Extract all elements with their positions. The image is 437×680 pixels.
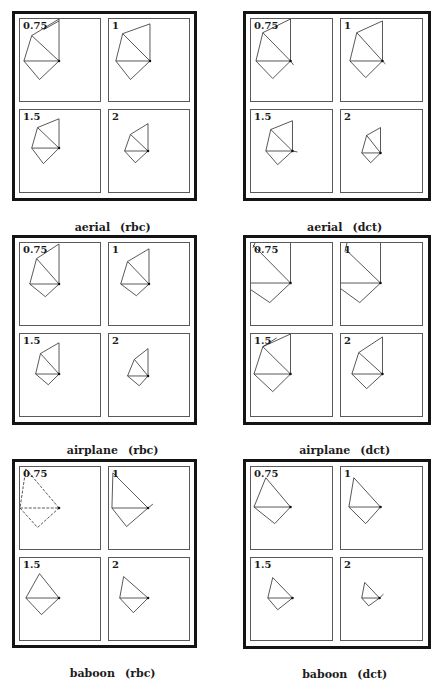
caption-baboon-rbc: baboon(rbc) <box>5 653 205 680</box>
panel-airplane-rbc: 0.7511.52 <box>12 235 197 425</box>
center-point-marker <box>147 150 150 153</box>
subplot-scale-2: 2 <box>340 557 423 641</box>
trajectory-plot <box>341 19 422 101</box>
scale-label: 2 <box>344 111 351 123</box>
scale-label: 2 <box>344 559 351 571</box>
center-point-marker <box>289 373 292 376</box>
caption-image-name: aerial <box>75 221 110 234</box>
caption-image-name: baboon <box>302 668 347 680</box>
subplot-scale-2: 2 <box>340 333 423 417</box>
subplot-scale-1-5: 1.5 <box>19 109 101 193</box>
scale-label: 2 <box>344 335 351 347</box>
caption-method: (dct) <box>352 221 382 234</box>
subplot-scale-1: 1 <box>108 466 190 550</box>
scale-label: 0.75 <box>23 20 47 32</box>
subplot-scale-1-5: 1.5 <box>19 557 101 641</box>
trajectory-plot <box>109 334 189 416</box>
center-point-marker <box>58 60 61 63</box>
caption-method: (dct) <box>360 444 390 457</box>
caption-image-name: airplane <box>67 444 118 457</box>
scale-label: 1.5 <box>23 111 40 123</box>
caption-method: (rbc) <box>125 667 156 680</box>
subplot-scale-0-75: 0.75 <box>250 466 333 550</box>
scale-label: 1 <box>112 468 119 480</box>
trajectory-plot <box>109 558 189 640</box>
scale-label: 1 <box>344 244 351 256</box>
scale-label: 2 <box>112 335 119 347</box>
subplot-scale-1-5: 1.5 <box>250 557 333 641</box>
scale-label: 1.5 <box>254 111 271 123</box>
subplot-scale-2: 2 <box>340 109 423 193</box>
scale-label: 0.75 <box>254 468 278 480</box>
trajectory-plot <box>109 110 189 192</box>
scale-label: 1.5 <box>23 335 40 347</box>
scale-label: 0.75 <box>23 244 47 256</box>
caption-image-name: aerial <box>307 221 342 234</box>
subplot-scale-0-75: 0.75 <box>19 466 101 550</box>
subplot-scale-1-5: 1.5 <box>19 333 101 417</box>
center-point-marker <box>58 507 61 510</box>
center-point-marker <box>58 147 61 150</box>
subplot-scale-1: 1 <box>340 466 423 550</box>
scale-label: 1 <box>344 468 351 480</box>
scale-label: 1 <box>344 20 351 32</box>
panel-baboon-rbc: 0.7511.52 <box>12 459 197 648</box>
center-point-marker <box>379 506 382 509</box>
subplot-scale-2: 2 <box>108 109 190 193</box>
center-point-marker <box>291 150 294 153</box>
center-point-marker <box>148 283 151 286</box>
trajectory-plot <box>109 243 189 325</box>
center-point-marker <box>379 152 382 155</box>
scale-label: 0.75 <box>254 244 278 256</box>
scale-label: 0.75 <box>23 468 47 480</box>
center-point-marker <box>379 282 382 285</box>
center-point-marker <box>291 597 294 600</box>
trajectory-plot <box>341 243 422 325</box>
center-point-marker <box>289 60 292 63</box>
center-point-marker <box>149 60 152 63</box>
center-point-marker <box>147 375 150 378</box>
panel-airplane-dct: 0.7511.52 <box>243 235 431 425</box>
center-point-marker <box>289 506 292 509</box>
subplot-scale-0-75: 0.75 <box>250 242 333 326</box>
subplot-scale-0-75: 0.75 <box>250 18 333 102</box>
center-point-marker <box>289 282 292 285</box>
center-point-marker <box>147 597 150 600</box>
trajectory-plot <box>109 19 189 101</box>
panel-aerial-rbc: 0.7511.52 <box>12 11 197 201</box>
caption-image-name: airplane <box>299 444 350 457</box>
center-point-marker <box>147 507 150 510</box>
subplot-scale-0-75: 0.75 <box>19 242 101 326</box>
panel-aerial-dct: 0.7511.52 <box>243 11 431 201</box>
subplot-scale-2: 2 <box>108 333 190 417</box>
subplot-scale-1: 1 <box>340 18 423 102</box>
subplot-scale-1-5: 1.5 <box>250 333 333 417</box>
scale-label: 2 <box>112 559 119 571</box>
scale-label: 1.5 <box>254 335 271 347</box>
center-point-marker <box>58 597 61 600</box>
scale-label: 1.5 <box>23 559 40 571</box>
caption-method: (rbc) <box>120 221 151 234</box>
scale-label: 1.5 <box>254 559 271 571</box>
trajectory-plot <box>341 558 422 640</box>
center-point-marker <box>58 283 61 286</box>
subplot-scale-1: 1 <box>340 242 423 326</box>
caption-method: (dct) <box>357 668 387 680</box>
subplot-scale-2: 2 <box>108 557 190 641</box>
subplot-scale-1: 1 <box>108 242 190 326</box>
center-point-marker <box>381 60 384 63</box>
scale-label: 1 <box>112 20 119 32</box>
trajectory-plot <box>341 334 422 416</box>
scale-label: 0.75 <box>254 20 278 32</box>
trajectory-plot <box>341 467 422 549</box>
caption-baboon-dct: baboon(dct) <box>237 654 437 680</box>
trajectory-plot <box>109 467 189 549</box>
caption-method: (rbc) <box>128 444 159 457</box>
subplot-scale-1: 1 <box>108 18 190 102</box>
center-point-marker <box>378 597 381 600</box>
center-point-marker <box>58 373 61 376</box>
scale-label: 1 <box>112 244 119 256</box>
caption-image-name: baboon <box>70 667 115 680</box>
subplot-scale-0-75: 0.75 <box>19 18 101 102</box>
trajectory-plot <box>341 110 422 192</box>
